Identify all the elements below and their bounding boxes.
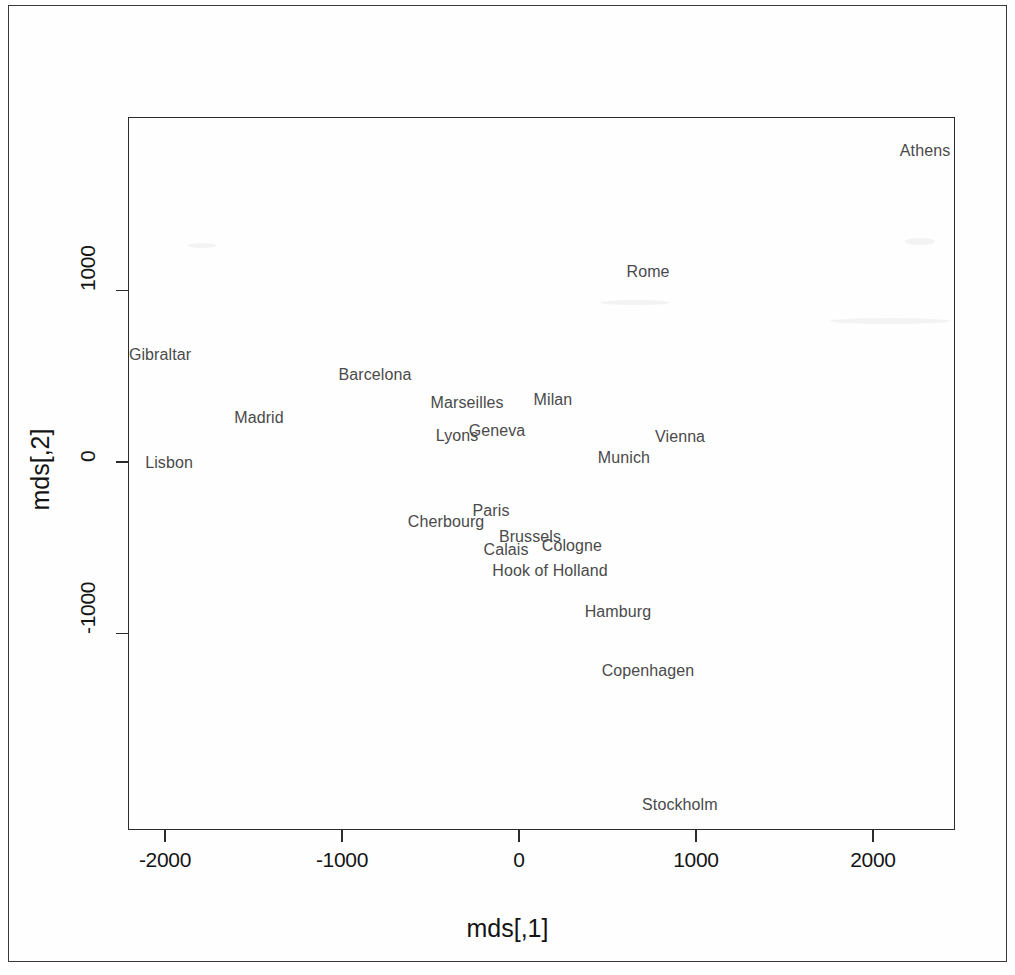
- x-axis-title: mds[,1]: [0, 914, 1015, 943]
- city-label: Milan: [534, 392, 573, 408]
- x-tick-label: 0: [513, 848, 524, 872]
- city-label: Barcelona: [338, 367, 411, 383]
- x-tick-mark: [695, 830, 697, 842]
- city-label: Copenhagen: [602, 663, 695, 679]
- city-label: Vienna: [655, 429, 705, 445]
- plot-panel-box: [128, 117, 955, 830]
- city-label: Lyons: [436, 428, 479, 444]
- y-tick-mark: [116, 290, 128, 292]
- x-tick-mark: [164, 830, 166, 842]
- city-label: Cherbourg: [408, 514, 485, 530]
- city-label: Lisbon: [145, 455, 193, 471]
- x-tick-mark: [872, 830, 874, 842]
- city-label: Stockholm: [642, 797, 718, 813]
- x-tick-label: 1000: [673, 848, 719, 872]
- x-tick-label: -1000: [316, 848, 368, 872]
- city-label: Athens: [900, 143, 950, 159]
- y-tick-mark: [116, 633, 128, 635]
- city-label: Gibraltar: [129, 347, 191, 363]
- x-tick-mark: [341, 830, 343, 842]
- city-label: Hook of Holland: [492, 563, 607, 579]
- x-tick-mark: [518, 830, 520, 842]
- city-label: Madrid: [234, 410, 284, 426]
- y-axis-title: mds[,2]: [26, 370, 55, 570]
- mds-scatter-figure: -2000-1000010002000 -100001000 AthensRom…: [0, 0, 1015, 975]
- city-label: Munich: [598, 450, 650, 466]
- x-tick-label: -2000: [139, 848, 191, 872]
- y-tick-mark: [116, 461, 128, 463]
- city-label: Marseilles: [431, 395, 504, 411]
- city-label: Cologne: [542, 538, 602, 554]
- city-label: Calais: [484, 542, 529, 558]
- city-label: Rome: [626, 264, 669, 280]
- x-tick-label: 2000: [850, 848, 896, 872]
- city-label: Hamburg: [585, 604, 652, 620]
